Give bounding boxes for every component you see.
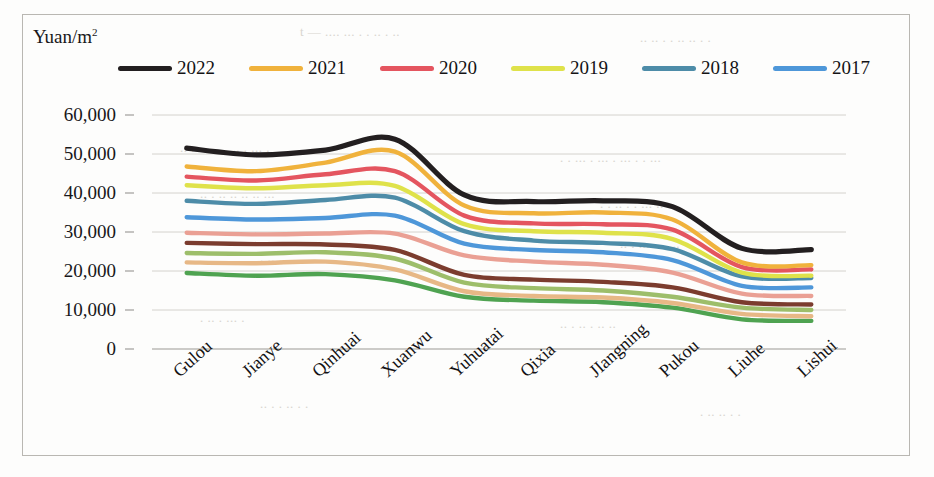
legend-label-2018: 2018 (701, 57, 739, 79)
y-axis-tick-label: 0 (107, 338, 117, 360)
x-axis-labels: GulouJianyeQinhuaiXuanwuYuhuataiQixiaJIa… (140, 360, 900, 460)
legend-swatch-2022 (118, 66, 172, 71)
legend-swatch-2018 (642, 66, 696, 71)
y-axis-tick-label: 20,000 (64, 260, 116, 282)
axis-unit-title: Yuan/m2 (33, 26, 98, 48)
screenshot-root: t — .... ... . . .. . .... .. . . .. .. … (0, 0, 934, 477)
legend-item-2019[interactable]: 2019 (511, 57, 608, 79)
legend-label-2020: 2020 (439, 57, 477, 79)
legend-label-2021: 2021 (308, 57, 346, 79)
legend-item-2021[interactable]: 2021 (249, 57, 346, 79)
y-axis-tick-label: 50,000 (64, 143, 116, 165)
plot-area (152, 115, 846, 349)
legend-label-2022: 2022 (177, 57, 215, 79)
legend-swatch-2020 (380, 66, 434, 71)
legend-item-2022[interactable]: 2022 (118, 57, 215, 79)
legend-label-2019: 2019 (570, 57, 608, 79)
y-axis-tick-mark (125, 310, 134, 311)
legend-item-2017[interactable]: 2017 (773, 57, 870, 79)
y-axis-tick-label: 10,000 (64, 299, 116, 321)
y-axis-tick-label: 40,000 (64, 182, 116, 204)
axis-unit-title-exponent: 2 (92, 26, 98, 38)
y-axis-tick-label: 60,000 (64, 104, 116, 126)
legend-swatch-2021 (249, 66, 303, 71)
y-axis-tick-mark (125, 154, 134, 155)
y-axis-tick-mark (125, 232, 134, 233)
y-axis-tick-mark (125, 349, 134, 350)
axis-unit-title-text: Yuan/m (33, 26, 92, 47)
legend-item-2020[interactable]: 2020 (380, 57, 477, 79)
legend-swatch-2017 (773, 66, 827, 71)
y-axis-tick-label: 30,000 (64, 221, 116, 243)
y-axis-tick-mark (125, 271, 134, 272)
y-axis-tick-mark (125, 115, 134, 116)
series-lines (152, 115, 846, 349)
y-axis-labels: 60,00050,00040,00030,00020,00010,0000 (28, 103, 138, 363)
legend-swatch-2019 (511, 66, 565, 71)
legend-item-2018[interactable]: 2018 (642, 57, 739, 79)
y-axis-tick-mark (125, 193, 134, 194)
legend-label-2017: 2017 (832, 57, 870, 79)
chart-legend: 202220212020201920182017 (118, 57, 818, 79)
